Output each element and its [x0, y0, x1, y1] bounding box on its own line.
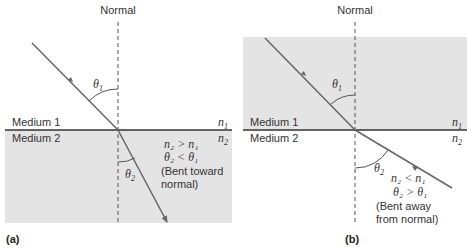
n1-label: n1 [218, 115, 228, 131]
angle-relation: θ₂ < θ₁ [164, 150, 198, 164]
theta2-arc [355, 150, 388, 168]
medium2-label: Medium 2 [12, 132, 60, 144]
n2-label: n2 [452, 131, 462, 147]
angle-relation: θ₂ > θ₁ [393, 185, 427, 199]
index-relation: n₂ > n₁ [164, 137, 198, 151]
panel-b: Normal θ1 θ2 Medium 1 Medium 2 n1 n2 n₂ … [243, 4, 467, 245]
note-line2: normal) [161, 178, 198, 190]
note-line2: from normal) [376, 213, 438, 225]
normal-label: Normal [337, 4, 372, 16]
note-line1: (Bent away [376, 200, 432, 212]
normal-label: Normal [100, 4, 135, 16]
panel-a: Normal θ1 θ2 Medium 1 Medium 2 n1 n2 n₂ … [5, 4, 232, 245]
note-line1: (Bent toward [161, 165, 223, 177]
medium1-label: Medium 1 [250, 116, 298, 128]
theta1-label: θ1 [93, 77, 103, 93]
refraction-diagram: Normal θ1 θ2 Medium 1 Medium 2 n1 n2 n₂ … [0, 0, 467, 250]
medium1-label: Medium 1 [12, 116, 60, 128]
panel-b-label: (b) [345, 233, 359, 245]
index-relation: n₂ < n₁ [391, 171, 425, 185]
panel-a-label: (a) [6, 233, 20, 245]
medium2-label: Medium 2 [250, 132, 298, 144]
theta2-label: θ2 [374, 161, 384, 177]
